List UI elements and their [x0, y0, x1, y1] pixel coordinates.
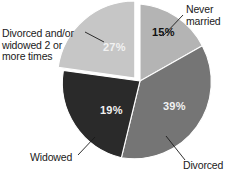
slice-value-never-married: 15%	[152, 26, 175, 38]
slice-value-widowed: 19%	[100, 104, 123, 116]
slice-label-never-married-line2: married	[186, 16, 221, 28]
slice-label-divorced: Divorced	[183, 160, 223, 172]
slice-value-divorced: 39%	[163, 100, 186, 112]
slice-label-divorced-widowed-multi-line3: more times	[2, 51, 84, 63]
pie-chart: 15% 39% 19% 27% Never married Divorced a…	[0, 0, 244, 181]
slice-label-never-married-line1: Never	[186, 4, 221, 16]
slice-label-widowed: Widowed	[30, 152, 72, 164]
slice-label-divorced-widowed-multi-line1: Divorced and/or	[2, 28, 84, 40]
slice-label-never-married: Never married	[186, 4, 221, 27]
slice-label-divorced-widowed-multi: Divorced and/or widowed 2 or more times	[2, 28, 84, 63]
slice-value-divorced-widowed-multi: 27%	[103, 41, 126, 53]
